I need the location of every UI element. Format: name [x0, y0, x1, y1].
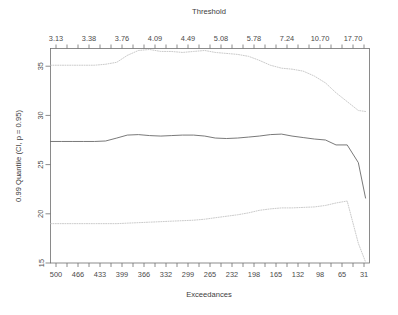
series-quantile-estimate [51, 134, 366, 198]
threshold-tick-label: 3.76 [115, 34, 129, 43]
x-bottom-tick-label: 31 [360, 270, 368, 279]
x-bottom-tick-label: 132 [292, 270, 304, 279]
y-tick-label: 35 [37, 62, 46, 70]
x-bottom-tick-label: 198 [248, 270, 260, 279]
x-bottom-tick-label: 265 [204, 270, 216, 279]
threshold-tick-label: 7.24 [280, 34, 294, 43]
x-bottom-tick-label: 299 [182, 270, 194, 279]
quantile-axis: 1520253035 [37, 62, 51, 267]
threshold-axis-title: Threshold [192, 7, 226, 16]
threshold-tick-label: 17.70 [344, 34, 363, 43]
threshold-tick-label: 3.38 [82, 34, 96, 43]
y-tick-label: 20 [37, 210, 46, 218]
x-bottom-tick-label: 232 [226, 270, 238, 279]
y-tick-label: 30 [37, 111, 46, 119]
x-bottom-tick-label: 332 [160, 270, 172, 279]
threshold-tick-label: 5.08 [214, 34, 228, 43]
x-bottom-tick-label: 165 [270, 270, 282, 279]
x-bottom-tick-label: 65 [338, 270, 346, 279]
y-tick-label: 15 [37, 259, 46, 267]
threshold-tick-label: 3.13 [49, 34, 63, 43]
series-lower-confidence-limit [51, 201, 366, 262]
plot-canvas: Threshold 3.133.383.764.094.495.085.787.… [0, 0, 398, 315]
x-bottom-tick-label: 366 [138, 270, 150, 279]
plot-frame [51, 49, 370, 264]
data-series-group [51, 49, 366, 262]
threshold-tick-label: 4.09 [148, 34, 162, 43]
x-bottom-tick-label: 399 [116, 270, 128, 279]
y-tick-label: 25 [37, 160, 46, 168]
quantile-axis-title: 0.99 Quantile (CI, p = 0.95) [14, 110, 23, 202]
threshold-tick-label: 10.70 [311, 34, 330, 43]
exceedances-axis: 5004664333993663322992652321981651329865… [50, 263, 368, 279]
exceedances-axis-title: Exceedances [186, 290, 232, 299]
threshold-tick-label: 4.49 [181, 34, 195, 43]
x-bottom-tick-label: 466 [72, 270, 84, 279]
x-bottom-tick-label: 98 [316, 270, 324, 279]
series-upper-confidence-limit [51, 49, 366, 111]
quantile-plot-figure: Threshold 3.133.383.764.094.495.085.787.… [0, 0, 398, 315]
x-bottom-tick-label: 500 [50, 270, 62, 279]
x-bottom-tick-label: 433 [94, 270, 106, 279]
threshold-tick-label: 5.78 [247, 34, 261, 43]
threshold-axis: 3.133.383.764.094.495.085.787.2410.7017.… [49, 34, 364, 49]
